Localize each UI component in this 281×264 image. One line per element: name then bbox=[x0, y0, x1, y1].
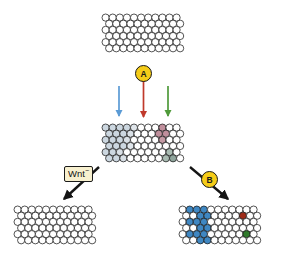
cell bbox=[155, 45, 162, 52]
cell bbox=[177, 155, 184, 162]
cell bbox=[46, 237, 53, 244]
cell bbox=[120, 155, 127, 162]
cell bbox=[89, 237, 96, 244]
pathway-figure: A B Wnt− bbox=[0, 0, 281, 264]
cell bbox=[113, 45, 120, 52]
cell bbox=[190, 237, 197, 244]
cell bbox=[53, 237, 60, 244]
cell bbox=[141, 45, 148, 52]
cell bbox=[39, 237, 46, 244]
cell bbox=[246, 237, 253, 244]
undifferentiated-sheet bbox=[101, 13, 185, 53]
cell bbox=[211, 237, 218, 244]
cell bbox=[254, 237, 261, 244]
cell bbox=[148, 45, 155, 52]
undifferentiated-sheet-grid bbox=[101, 13, 185, 53]
cell bbox=[148, 155, 155, 162]
cell bbox=[177, 45, 184, 52]
cell bbox=[74, 237, 81, 244]
cell bbox=[239, 237, 246, 244]
cell bbox=[197, 237, 204, 244]
cell bbox=[218, 237, 225, 244]
cell bbox=[204, 237, 211, 244]
wnt-label-text: Wnt bbox=[68, 168, 85, 179]
wnt-minus-sheet-grid bbox=[13, 205, 97, 245]
cell bbox=[25, 237, 32, 244]
cell bbox=[60, 237, 67, 244]
cell bbox=[225, 237, 232, 244]
cell bbox=[106, 155, 113, 162]
cell bbox=[113, 155, 120, 162]
cell bbox=[127, 45, 134, 52]
differentiated-sheet-grid bbox=[178, 205, 262, 245]
cell bbox=[232, 237, 239, 244]
cell bbox=[169, 155, 176, 162]
cell bbox=[134, 155, 141, 162]
cell bbox=[134, 45, 141, 52]
cell bbox=[18, 237, 25, 244]
wnt-label[interactable]: Wnt− bbox=[64, 166, 93, 182]
cell bbox=[127, 155, 134, 162]
wnt-label-superscript: − bbox=[85, 167, 89, 174]
signal-a-label: A bbox=[140, 69, 146, 79]
patterned-sheet bbox=[101, 123, 185, 163]
cell bbox=[106, 45, 113, 52]
cell bbox=[183, 237, 190, 244]
cell bbox=[81, 237, 88, 244]
cell bbox=[162, 155, 169, 162]
patterned-sheet-grid bbox=[101, 123, 185, 163]
cell bbox=[155, 155, 162, 162]
signal-a-badge[interactable]: A bbox=[135, 65, 152, 82]
cell bbox=[141, 155, 148, 162]
differentiated-sheet bbox=[178, 205, 262, 245]
cell bbox=[32, 237, 39, 244]
cell bbox=[169, 45, 176, 52]
cell bbox=[67, 237, 74, 244]
wnt-minus-sheet bbox=[13, 205, 97, 245]
signal-b-label: B bbox=[206, 175, 212, 185]
cell bbox=[162, 45, 169, 52]
signal-b-badge[interactable]: B bbox=[201, 171, 218, 188]
cell bbox=[120, 45, 127, 52]
